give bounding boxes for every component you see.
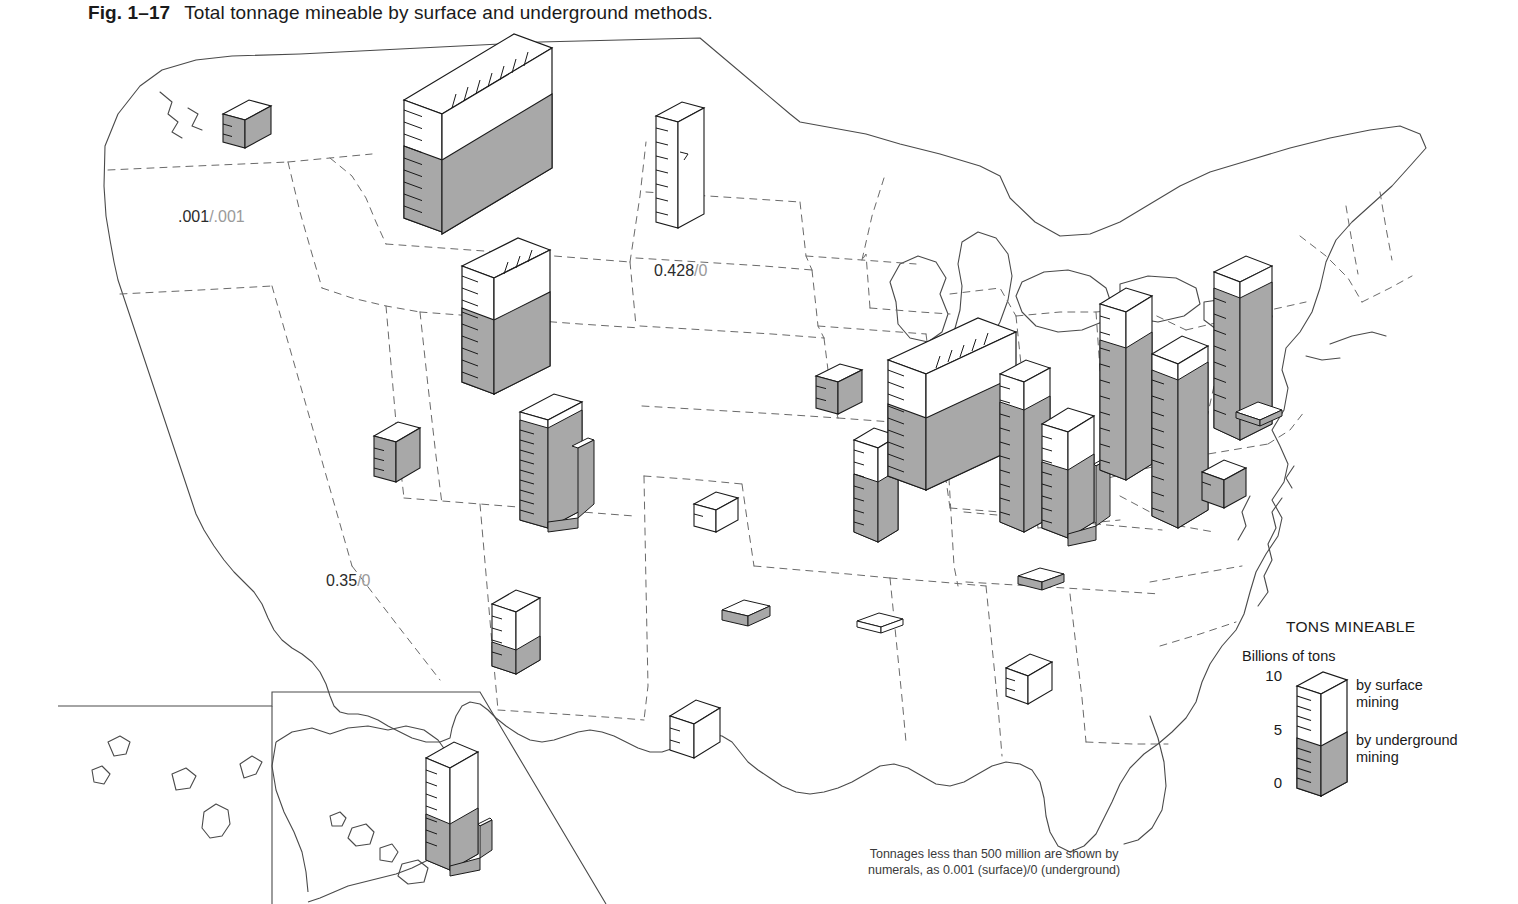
figure-number: Fig. 1–17 xyxy=(88,2,170,23)
legend-underground-label: by underground mining xyxy=(1356,732,1458,766)
legend-tick-10: 10 xyxy=(1258,667,1282,684)
annotation-arizona-surface: 0.35 xyxy=(326,572,357,589)
bar-utah-colorado xyxy=(512,386,598,538)
legend-underground-line2: mining xyxy=(1356,749,1458,766)
legend: TONS MINEABLE Billions of tons 10 5 0 by… xyxy=(1238,592,1506,822)
map-figure: .001/.001 0.428/0 0.35/0 TONS MINEABLE B… xyxy=(0,26,1518,904)
bar-wyoming xyxy=(452,208,556,408)
bar-oklahoma xyxy=(718,596,776,632)
legend-units-label: Billions of tons xyxy=(1242,648,1336,664)
legend-scale-bar xyxy=(1293,668,1355,808)
legend-surface-line1: by surface xyxy=(1356,677,1423,694)
annotation-idaho-surface: .001 xyxy=(178,208,209,225)
legend-underground-line1: by underground xyxy=(1356,732,1458,749)
bar-maryland xyxy=(1232,398,1288,432)
bar-new-mexico xyxy=(486,582,548,682)
annotation-arizona-underground: 0 xyxy=(362,572,371,589)
bar-kansas xyxy=(690,488,742,538)
bar-arkansas xyxy=(853,609,909,639)
bar-iowa xyxy=(812,358,868,420)
annotation-idaho-underground: .001 xyxy=(214,208,245,225)
legend-surface-line2: mining xyxy=(1356,694,1423,711)
annotation-idaho: .001/.001 xyxy=(178,208,245,226)
annotation-south-dakota: 0.428/0 xyxy=(654,262,707,280)
annotation-arizona: 0.35/0 xyxy=(326,572,371,590)
bar-north-dakota xyxy=(646,76,712,236)
bar-nevada xyxy=(370,414,426,490)
bar-tennessee xyxy=(1014,564,1070,596)
legend-tick-0: 0 xyxy=(1258,774,1282,791)
legend-surface-label: by surface mining xyxy=(1356,677,1423,711)
legend-title: TONS MINEABLE xyxy=(1286,618,1415,636)
bar-virginia xyxy=(1198,454,1252,516)
legend-tick-5: 5 xyxy=(1258,721,1282,738)
figure-caption: Fig. 1–17Total tonnage mineable by surfa… xyxy=(88,2,713,24)
bar-alabama xyxy=(1000,646,1058,712)
bar-texas xyxy=(664,690,728,766)
annotation-south-dakota-surface: 0.428 xyxy=(654,262,694,279)
footnote: Tonnages less than 500 million are shown… xyxy=(868,846,1120,878)
annotation-south-dakota-underground: 0 xyxy=(699,262,708,279)
bar-washington xyxy=(219,96,275,154)
bar-alaska xyxy=(418,728,496,878)
figure-title: Total tonnage mineable by surface and un… xyxy=(184,2,713,23)
